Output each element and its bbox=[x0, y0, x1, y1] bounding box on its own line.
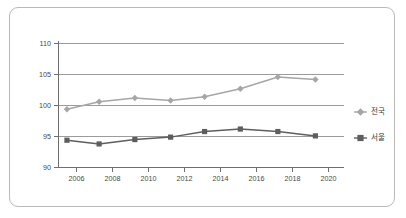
legend-label-seoul: 서울 bbox=[371, 133, 385, 142]
x-tick-label-2018: 2018 bbox=[285, 174, 301, 183]
square-marker bbox=[238, 126, 243, 131]
x-tick-label-2020: 2020 bbox=[321, 174, 337, 183]
x-tick-label-2006: 2006 bbox=[69, 174, 85, 183]
square-marker bbox=[64, 138, 69, 143]
diamond-marker bbox=[132, 95, 138, 101]
series-line bbox=[67, 77, 315, 109]
diamond-marker bbox=[96, 99, 102, 105]
x-tick-label-2008: 2008 bbox=[105, 174, 121, 183]
chart-figure: 110 105 100 95 90 2006 2008 2010 2012 20… bbox=[9, 7, 395, 207]
legend-label-national: 전국 bbox=[371, 106, 385, 116]
diamond-icon-national bbox=[357, 108, 365, 116]
diamond-marker bbox=[167, 97, 173, 103]
y-tick-label-105: 105 bbox=[39, 70, 51, 79]
y-tick-label-90: 90 bbox=[43, 163, 51, 172]
line-chart-plot: 110 105 100 95 90 2006 2008 2010 2012 20… bbox=[10, 8, 396, 208]
square-marker bbox=[202, 129, 207, 134]
gridlines bbox=[58, 44, 344, 168]
x-axis: 2006 2008 2010 2012 2014 2016 2018 2020 bbox=[58, 168, 344, 184]
diamond-marker bbox=[237, 86, 243, 92]
y-tick-label-100: 100 bbox=[39, 101, 51, 110]
diamond-marker bbox=[64, 106, 70, 112]
y-tick-label-95: 95 bbox=[43, 132, 51, 141]
square-marker bbox=[313, 133, 318, 138]
x-tick-label-2014: 2014 bbox=[213, 174, 229, 183]
series-전국 bbox=[64, 74, 319, 113]
square-marker bbox=[132, 137, 137, 142]
square-icon-seoul bbox=[357, 135, 363, 141]
x-tick-label-2012: 2012 bbox=[177, 174, 193, 183]
data-series-layer bbox=[64, 74, 319, 147]
chart-legend: 전국 서울 bbox=[354, 106, 385, 142]
x-tick-label-2016: 2016 bbox=[249, 174, 265, 183]
y-tick-label-110: 110 bbox=[40, 39, 51, 48]
y-axis: 110 105 100 95 90 bbox=[39, 39, 59, 172]
x-tick-label-2010: 2010 bbox=[141, 174, 157, 183]
square-marker bbox=[275, 129, 280, 134]
square-marker bbox=[168, 135, 173, 140]
diamond-marker bbox=[312, 76, 318, 82]
square-marker bbox=[97, 141, 102, 146]
diamond-marker bbox=[201, 94, 207, 100]
